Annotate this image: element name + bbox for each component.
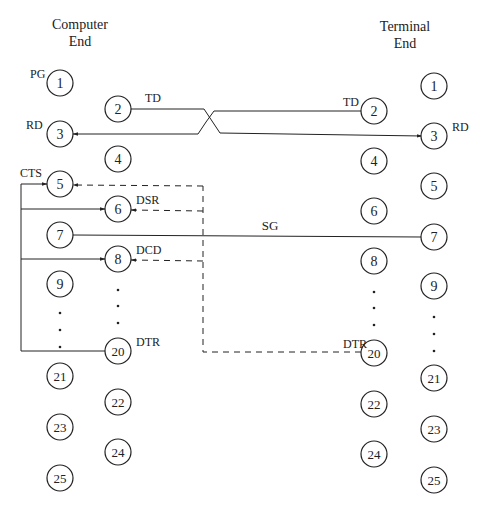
terminal-pin-8: 8 [361, 248, 387, 274]
pin-number: 8 [115, 252, 122, 267]
ellipsis-dot-computer_inner [117, 305, 120, 308]
pin-signal-label: RD [452, 120, 469, 134]
computer-pin-2: 2TD [105, 91, 161, 122]
computer-pin-7: 7 [47, 222, 73, 248]
sg-label: SG [262, 218, 279, 233]
rs232-null-modem-diagram: Computer End Terminal End SG 1PG2TD3RD45… [0, 0, 485, 511]
terminal-end-header-line1: Terminal [380, 19, 430, 34]
pin-number: 7 [57, 228, 64, 243]
pin-number: 20 [368, 346, 381, 361]
pin-number: 2 [115, 102, 122, 117]
computer-pin-4: 4 [105, 146, 131, 172]
computer-pin-9: 9 [47, 271, 73, 297]
terminal-pin-4: 4 [361, 148, 387, 174]
solid-wires [21, 109, 422, 351]
ellipsis-dot-terminal_inner [373, 324, 376, 327]
pin-number: 20 [112, 344, 125, 359]
computer-pin-21: 21 [47, 363, 73, 389]
computer-pin-24: 24 [105, 439, 131, 465]
terminal-pin-22: 22 [361, 391, 387, 417]
pin-number: 1 [431, 79, 438, 94]
pin-number: 21 [428, 371, 441, 386]
terminal-pin-24: 24 [361, 441, 387, 467]
terminal-pin-25: 25 [421, 467, 447, 493]
pin-number: 9 [57, 277, 64, 292]
terminal-pin-21: 21 [421, 365, 447, 391]
pin-signal-label: CTS [20, 166, 42, 180]
pin-number: 3 [431, 129, 438, 144]
pin-number: 5 [431, 179, 438, 194]
ellipsis-dot-terminal_inner [373, 307, 376, 310]
pin-number: 1 [57, 76, 64, 91]
dashed-to-dcd [131, 260, 203, 261]
terminal-pin-9: 9 [421, 273, 447, 299]
computer-pin-1: 1PG [30, 67, 73, 96]
ellipsis-dot-computer_outer [59, 312, 62, 315]
terminal-pin-6: 6 [361, 198, 387, 224]
pin-number: 4 [371, 154, 378, 169]
ellipsis-dot-terminal_outer [433, 316, 436, 319]
terminal-pin-5: 5 [421, 173, 447, 199]
ellipsis-dot-terminal_inner [373, 291, 376, 294]
computer-end-header-line2: End [69, 34, 92, 49]
dashed-dtr-path [203, 186, 361, 352]
pin-signal-label: TD [343, 95, 359, 109]
ellipsis-dot-computer_inner [117, 322, 120, 325]
pin-number: 21 [54, 369, 67, 384]
pin-number: 9 [431, 279, 438, 294]
pin-number: 5 [57, 177, 64, 192]
ellipsis-dot-terminal_outer [433, 333, 436, 336]
pin-number: 25 [428, 473, 441, 488]
terminal-end-header-line2: End [394, 36, 417, 51]
computer-pin-3: 3RD [26, 118, 73, 147]
computer-pin-8: 8DCD [105, 243, 162, 272]
computer-pin-5: 5CTS [20, 166, 73, 197]
pin-number: 24 [112, 445, 126, 460]
pin-signal-label: DSR [136, 193, 159, 207]
terminal-pin-23: 23 [421, 416, 447, 442]
pin-number: 8 [371, 254, 378, 269]
ellipsis-dot-terminal_outer [433, 350, 436, 353]
pin-number: 23 [54, 420, 67, 435]
terminal-pin-7: 7 [421, 224, 447, 250]
pin-signal-label: DTR [136, 335, 160, 349]
pin-number: 6 [115, 202, 122, 217]
pin-number: 22 [112, 395, 125, 410]
computer-pin-23: 23 [47, 414, 73, 440]
pin-signal-label: DTR [343, 337, 367, 351]
computer-pin-6: 6DSR [105, 193, 159, 222]
computer-pin-25: 25 [47, 465, 73, 491]
ellipsis-dot-computer_outer [59, 346, 62, 349]
ellipsis-dot-computer_outer [59, 329, 62, 332]
computer-pin-22: 22 [105, 389, 131, 415]
pin-signal-label: RD [26, 118, 43, 132]
wire-sg [73, 235, 421, 237]
computer-end-pins: 1PG2TD3RD45CTS6DSR78DCD920DTR2122232425 [20, 67, 162, 491]
pin-number: 22 [368, 397, 381, 412]
pin-number: 2 [371, 104, 378, 119]
terminal-pin-3: 3RD [421, 120, 469, 149]
pin-number: 3 [57, 127, 64, 142]
terminal-pin-1: 1 [421, 73, 447, 99]
pin-signal-label: DCD [136, 243, 162, 257]
pin-signal-label: PG [30, 67, 46, 81]
computer-end-header-line1: Computer [52, 17, 108, 32]
pin-number: 23 [428, 422, 441, 437]
dashed-to-dsr [131, 210, 203, 211]
dashed-to-cts [73, 185, 203, 186]
computer-pin-20: 20DTR [105, 335, 160, 364]
pin-number: 4 [115, 152, 122, 167]
ellipsis-dot-computer_inner [117, 289, 120, 292]
pin-number: 25 [54, 471, 67, 486]
terminal-pin-2: 2TD [343, 95, 387, 124]
pin-signal-label: TD [145, 91, 161, 105]
pin-number: 6 [371, 204, 378, 219]
pin-number: 7 [431, 230, 438, 245]
pin-number: 24 [368, 447, 382, 462]
